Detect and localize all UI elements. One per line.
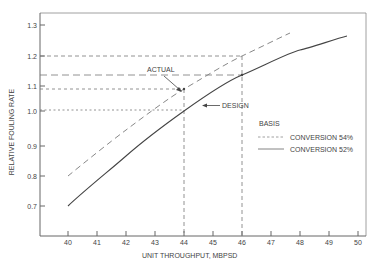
legend-label-52: CONVERSION 52% — [290, 146, 353, 153]
y-tick-label: 0.8 — [27, 173, 37, 180]
y-tick-label: 0.9 — [27, 143, 37, 150]
y-axis-title: RELATIVE FOULING RATE — [8, 88, 15, 175]
annotation-design: DESIGN — [222, 102, 249, 109]
x-axis-ticks: 40 41 42 43 44 45 46 47 48 49 50 — [64, 231, 362, 246]
series-conversion-54-dashed — [68, 33, 290, 176]
legend: BASIS CONVERSION 54% CONVERSION 52% — [258, 120, 353, 153]
y-tick-label: 1.2 — [27, 53, 37, 60]
actual-point-marker — [183, 88, 185, 90]
legend-label-54: CONVERSION 54% — [290, 134, 353, 141]
fouling-rate-chart: 1.3 1.2 1.1 1.0 0.9 0.8 0.7 40 41 42 43 … — [0, 0, 378, 268]
arrow-icon — [164, 76, 182, 92]
y-tick-label: 0.7 — [27, 203, 37, 210]
legend-title: BASIS — [259, 120, 280, 127]
x-tick-label: 50 — [354, 239, 362, 246]
x-axis-title: UNIT THROUGHPUT, MBPSD — [142, 252, 237, 259]
x-tick-label: 46 — [238, 239, 246, 246]
design-point-marker — [241, 74, 243, 76]
x-tick-label: 42 — [122, 239, 130, 246]
y-axis-ticks: 1.3 1.2 1.1 1.0 0.9 0.8 0.7 — [27, 22, 45, 210]
x-tick-label: 47 — [267, 239, 275, 246]
x-tick-label: 40 — [64, 239, 72, 246]
reference-lines — [40, 56, 242, 236]
x-tick-label: 49 — [325, 239, 333, 246]
y-tick-label: 1.1 — [27, 83, 37, 90]
x-tick-label: 41 — [93, 239, 101, 246]
x-tick-label: 44 — [180, 239, 188, 246]
y-tick-label: 1.3 — [27, 22, 37, 29]
series-conversion-52-solid — [68, 36, 347, 206]
y-tick-label: 1.0 — [27, 108, 37, 115]
annotation-actual: ACTUAL — [147, 66, 175, 73]
plot-frame — [40, 13, 366, 236]
x-tick-label: 48 — [296, 239, 304, 246]
x-tick-label: 45 — [209, 239, 217, 246]
x-tick-label: 43 — [151, 239, 159, 246]
arrow-icon — [202, 104, 220, 108]
